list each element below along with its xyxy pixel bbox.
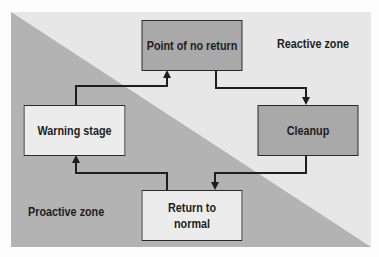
node-cleanup: Cleanup: [258, 105, 359, 156]
node-label: Point of no return: [147, 38, 238, 54]
arrow-warning-to-point: [76, 74, 167, 105]
node-label: Return to normal: [166, 200, 218, 232]
proactive-zone-label: Proactive zone: [28, 205, 104, 219]
node-label: Warning stage: [37, 123, 111, 139]
node-warning-stage: Warning stage: [24, 105, 126, 156]
arrow-cleanup-to-return: [215, 155, 306, 186]
arrow-point-to-cleanup: [216, 70, 306, 101]
node-return-to-normal: Return to normal: [142, 190, 243, 241]
reactive-zone-label: Reactive zone: [277, 37, 349, 51]
node-label: Cleanup: [287, 123, 330, 139]
arrow-return-to-warning: [76, 159, 167, 190]
node-point-of-no-return: Point of no return: [142, 20, 243, 71]
